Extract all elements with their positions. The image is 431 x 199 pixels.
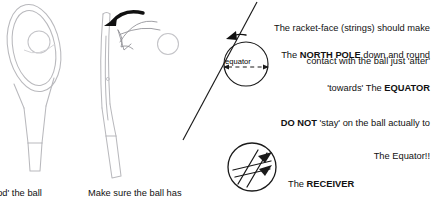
callout-north-pole-line1: The NORTH POLE down and round (236, 50, 430, 61)
np-text-a: The (281, 50, 300, 60)
np-text-d: 'towards' The (327, 83, 384, 93)
figure-canvas: equator The racket-face (strings) should… (0, 0, 431, 199)
callout-north-pole-line2: 'towards' The EQUATOR (236, 83, 430, 94)
receiver-text-a: The (288, 179, 307, 189)
do-not-text: 'stay' on the ball actually to (317, 118, 430, 128)
np-term-equator: EQUATOR (384, 83, 430, 93)
caption-left-racket: ood' the ball racket-strings, first cont… (0, 166, 88, 199)
callout-do-not-line1: DO NOT 'stay' on the ball actually to (236, 118, 430, 129)
caption-middle-racket: Make sure the ball has left the racket b… (88, 166, 192, 199)
caption-left-line1: ood' the ball (0, 188, 88, 199)
do-not-term: DO NOT (281, 118, 317, 128)
np-text-c: down and round (361, 50, 430, 60)
np-term-north-pole: NORTH POLE (300, 50, 361, 60)
racket-edge-on-icon (101, 13, 121, 179)
ball-icon (158, 34, 179, 55)
callout-receiver-line1: The RECEIVER (288, 179, 430, 190)
racket-face-on-icon (0, 0, 68, 171)
receiver-term: RECEIVER (307, 179, 355, 189)
caption-middle-line1: Make sure the ball has (88, 188, 192, 199)
callout-receiver: The RECEIVER will see the spin like this… (288, 157, 430, 199)
swing-path-lines (118, 21, 160, 50)
